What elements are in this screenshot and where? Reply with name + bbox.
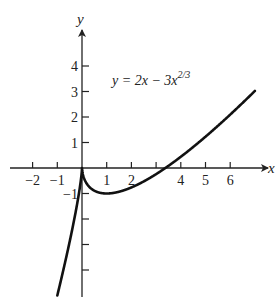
function-graph: −2−112456 4321−1 x y y = 2x − 3x2/3 — [0, 0, 279, 305]
y-ticks: 4321−1 — [63, 59, 89, 270]
x-tick-label: 6 — [227, 173, 234, 188]
x-ticks: −2−112456 — [25, 162, 234, 188]
x-tick-label: 1 — [103, 173, 110, 188]
x-tick-label: −2 — [25, 173, 40, 188]
y-tick-label: −1 — [63, 187, 78, 202]
y-tick-label: 1 — [71, 136, 78, 151]
y-tick-label: 2 — [71, 110, 78, 125]
x-tick-label: 4 — [177, 173, 184, 188]
y-tick-label: 3 — [71, 85, 78, 100]
equation-exponent: 2/3 — [178, 69, 191, 80]
equation-text: y = 2x − 3x — [110, 73, 178, 88]
y-axis-label: y — [75, 11, 84, 27]
y-tick-label: 4 — [71, 59, 78, 74]
x-axis-label: x — [267, 160, 275, 176]
x-tick-label: 5 — [202, 173, 209, 188]
equation-label: y = 2x − 3x2/3 — [110, 69, 190, 88]
